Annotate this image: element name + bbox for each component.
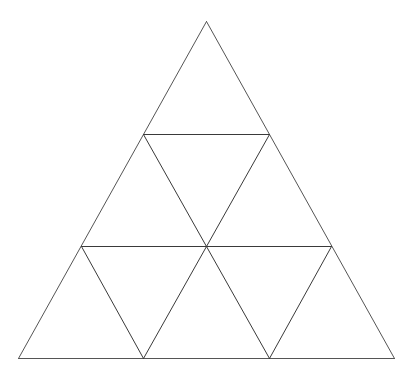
inner-diag-r1right-r2mid — [207, 135, 270, 247]
triangle-edges — [19, 22, 395, 359]
outer-right-edge — [207, 22, 395, 359]
inner-diag-r2mid-basem1 — [144, 247, 207, 359]
inner-diag-r1left-r2mid — [144, 135, 207, 247]
outer-left-edge — [19, 22, 207, 359]
triangle-diagram — [0, 0, 415, 380]
inner-diag-r2mid-basem2 — [207, 247, 270, 359]
inner-diag-r2right-basem2 — [270, 247, 332, 359]
inner-diag-r2left-basem1 — [82, 247, 144, 359]
